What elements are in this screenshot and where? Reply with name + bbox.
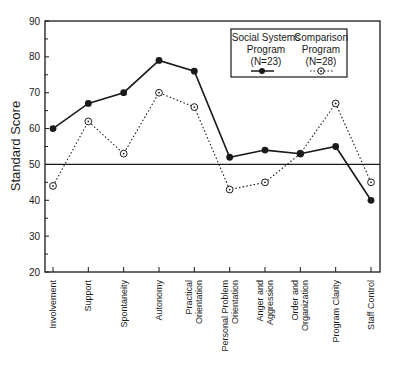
legend-label-line: (N=23) xyxy=(251,56,282,67)
comparison-point-center xyxy=(52,185,54,187)
x-category-label-line: Orientation xyxy=(194,280,204,324)
x-axis: InvolvementSupportSpontaneityAutonomyPra… xyxy=(48,267,376,352)
social-systems-point xyxy=(368,197,375,204)
x-category-label-line: Personal Problem xyxy=(220,280,230,352)
social-systems-point xyxy=(297,150,304,157)
x-category-label: Program Clarity xyxy=(331,280,341,343)
x-category-label-line: Involvement xyxy=(48,280,58,329)
x-category-label: Personal ProblemOrientation xyxy=(220,280,240,352)
x-category-label: Autonomy xyxy=(154,280,164,321)
y-tick-label: 70 xyxy=(29,87,41,98)
social-systems-point xyxy=(85,100,92,107)
social-systems-line xyxy=(53,60,371,200)
social-systems-point xyxy=(226,154,233,161)
comparison-point-center xyxy=(370,181,372,183)
social-systems-point xyxy=(156,57,163,64)
legend: Social Systems Program (N=23) Comparison… xyxy=(231,29,348,77)
x-category-label-line: Program Clarity xyxy=(331,280,341,343)
legend-filled-circle-icon xyxy=(259,68,265,74)
y-tick-label: 30 xyxy=(29,231,41,242)
y-tick-label: 90 xyxy=(29,16,41,27)
comparison-point-center xyxy=(229,189,231,191)
legend-label-line: Program xyxy=(302,44,340,55)
comparison-point-center xyxy=(264,181,266,183)
x-category-label-line: Organization xyxy=(300,280,310,331)
comparison-line xyxy=(53,93,371,190)
legend-label-line: (N=28) xyxy=(306,56,337,67)
x-category-label: Order andOrganization xyxy=(290,280,310,331)
social-systems-point xyxy=(191,68,198,75)
social-systems-point xyxy=(262,147,269,154)
y-tick-label: 80 xyxy=(29,51,41,62)
x-category-label-line: Practical xyxy=(184,280,194,315)
series-social-systems xyxy=(50,57,375,204)
comparison-point-center xyxy=(158,92,160,94)
social-systems-point xyxy=(50,125,57,132)
x-category-label-line: Spontaneity xyxy=(119,280,129,328)
y-tick-label: 50 xyxy=(29,159,41,170)
series-comparison xyxy=(50,89,375,193)
x-category-label-line: Order and xyxy=(290,280,300,321)
y-axis-title: Standard Score xyxy=(8,101,23,191)
x-category-label-line: Anger and xyxy=(255,280,265,322)
comparison-point-center xyxy=(335,103,337,105)
legend-open-circle-dot-icon xyxy=(320,70,322,72)
x-category-label: Involvement xyxy=(48,280,58,329)
legend-label-line: Program xyxy=(247,44,285,55)
social-systems-point xyxy=(120,89,127,96)
x-category-label: Anger andAggression xyxy=(255,280,275,325)
y-tick-label: 40 xyxy=(29,195,41,206)
comparison-point-center xyxy=(193,106,195,108)
legend-label-line: Social Systems xyxy=(232,32,300,43)
comparison-point-center xyxy=(123,153,125,155)
x-category-label-line: Support xyxy=(83,280,93,312)
series-layer xyxy=(50,57,375,204)
y-tick-label: 20 xyxy=(29,267,41,278)
x-category-label-line: Orientation xyxy=(230,280,240,324)
x-category-label: PracticalOrientation xyxy=(184,280,204,324)
y-tick-label: 60 xyxy=(29,123,41,134)
x-category-label: Support xyxy=(83,280,93,312)
x-category-label: Spontaneity xyxy=(119,280,129,328)
social-systems-point xyxy=(332,143,339,150)
legend-label-line: Comparison xyxy=(294,32,348,43)
y-axis: 2030405060708090 xyxy=(29,16,49,278)
comparison-point-center xyxy=(87,121,89,123)
x-category-label-line: Autonomy xyxy=(154,280,164,321)
x-category-label-line: Staff Control xyxy=(366,280,376,330)
line-chart: 2030405060708090 InvolvementSupportSpont… xyxy=(0,0,393,366)
x-category-label: Staff Control xyxy=(366,280,376,330)
x-category-label-line: Aggression xyxy=(265,280,275,325)
